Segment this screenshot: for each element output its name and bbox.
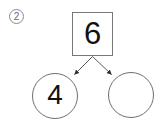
problem-number-marker: 2	[9, 9, 24, 24]
connector-line-right	[93, 57, 112, 75]
whole-value: 6	[84, 18, 101, 49]
number-bond-part-right[interactable]	[108, 72, 154, 118]
problem-number-label: 2	[14, 12, 20, 22]
number-bond-whole-box[interactable]: 6	[72, 12, 113, 56]
number-bond-part-left[interactable]: 4	[32, 73, 78, 119]
number-bond-problem: 2 6 4	[0, 0, 166, 126]
part-left-value: 4	[47, 81, 63, 109]
connector-line-left	[75, 57, 93, 75]
